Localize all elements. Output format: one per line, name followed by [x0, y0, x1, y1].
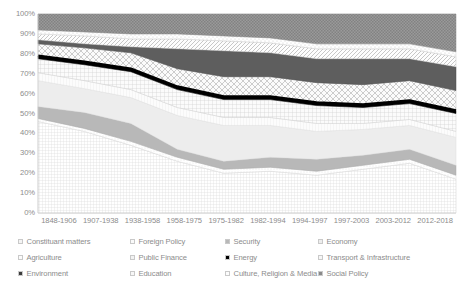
area-bands — [38, 14, 456, 213]
x-axis-tick-label: 1997-2003 — [331, 216, 373, 230]
y-axis-tick-label: 0% — [3, 209, 35, 217]
x-axis-tick-label: 2003-2012 — [372, 216, 414, 230]
x-axis-tick-label: 1848-1906 — [38, 216, 80, 230]
legend-swatch-icon — [130, 255, 135, 260]
legend-item[interactable]: Economy — [318, 237, 455, 246]
legend-swatch-icon — [318, 255, 323, 260]
legend-swatch-icon — [225, 239, 230, 244]
y-axis-tick-label: 30% — [3, 149, 35, 157]
legend-item-label: Environment — [27, 269, 69, 278]
legend-item[interactable]: Energy — [225, 253, 318, 262]
legend-item[interactable]: Foreign Policy — [130, 237, 225, 246]
legend-item-label: Culture, Religion & Media — [234, 269, 318, 278]
legend-swatch-icon — [225, 271, 230, 276]
legend-item-label: Foreign Policy — [139, 237, 186, 246]
x-axis-tick-label: 2012-2018 — [414, 216, 456, 230]
legend-item-label: Energy — [234, 253, 257, 262]
legend-item-label: Security — [234, 237, 261, 246]
legend-swatch-icon — [130, 239, 135, 244]
y-axis-tick-label: 90% — [3, 30, 35, 38]
x-axis-tick-label: 1958-1975 — [163, 216, 205, 230]
y-axis-tick-label: 50% — [3, 110, 35, 118]
plot-area — [0, 0, 463, 220]
x-axis: 1848-19061907-19381938-19581958-19751975… — [38, 216, 456, 230]
legend-item-label: Economy — [327, 237, 358, 246]
x-axis-tick-label: 1975-1982 — [205, 216, 247, 230]
legend-item[interactable]: Public Finance — [130, 253, 225, 262]
y-axis-tick-label: 100% — [3, 10, 35, 18]
legend-item-label: Constituant matters — [27, 237, 91, 246]
legend-swatch-icon — [318, 271, 323, 276]
legend-swatch-icon — [130, 271, 135, 276]
legend-item[interactable]: Social Policy — [318, 269, 455, 278]
legend-swatch-icon — [225, 255, 230, 260]
y-axis-tick-label: 80% — [3, 50, 35, 58]
y-axis-tick-label: 60% — [3, 90, 35, 98]
legend-swatch-icon — [18, 271, 23, 276]
legend-swatch-icon — [18, 239, 23, 244]
legend-item[interactable]: Transport & Infrastructure — [318, 253, 455, 262]
y-axis-tick-label: 70% — [3, 70, 35, 78]
stacked-area-chart: 100%90%80%70%60%50%40%30%20%10%0% 1848-1… — [0, 0, 463, 290]
legend-item-label: Transport & Infrastructure — [327, 253, 411, 262]
legend-item-label: Education — [139, 269, 172, 278]
legend-item[interactable]: Environment — [18, 269, 130, 278]
chart-canvas — [0, 0, 463, 220]
legend-item[interactable]: Constituant matters — [18, 237, 130, 246]
legend-item[interactable]: Culture, Religion & Media — [225, 269, 318, 278]
x-axis-tick-label: 1994-1997 — [289, 216, 331, 230]
x-axis-tick-label: 1938-1958 — [122, 216, 164, 230]
x-axis-tick-label: 1982-1994 — [247, 216, 289, 230]
legend-item-label: Social Policy — [327, 269, 369, 278]
y-axis: 100%90%80%70%60%50%40%30%20%10%0% — [0, 0, 35, 220]
legend-item-label: Agriculture — [27, 253, 62, 262]
legend-swatch-icon — [318, 239, 323, 244]
y-axis-tick-label: 20% — [3, 169, 35, 177]
x-axis-tick-label: 1907-1938 — [80, 216, 122, 230]
legend-item[interactable]: Education — [130, 269, 225, 278]
legend-item[interactable]: Security — [225, 237, 318, 246]
legend-item-label: Public Finance — [139, 253, 187, 262]
legend-item[interactable]: Agriculture — [18, 253, 130, 262]
y-axis-tick-label: 40% — [3, 129, 35, 137]
chart-legend: Constituant mattersForeign PolicySecurit… — [18, 233, 455, 285]
legend-swatch-icon — [18, 255, 23, 260]
y-axis-tick-label: 10% — [3, 189, 35, 197]
